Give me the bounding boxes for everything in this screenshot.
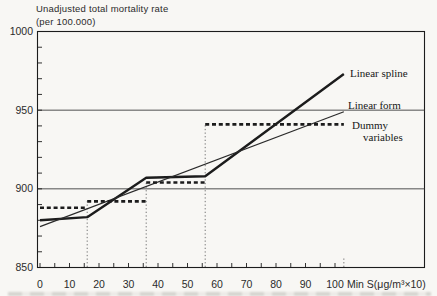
y-tick-label-950: 950 — [15, 104, 33, 116]
x-axis-title: Min S(μg/m³×10) — [347, 278, 426, 290]
chart-generated-layer: 10009509008500102030405060708090100Min S… — [10, 25, 426, 290]
x-tick-label-90: 90 — [300, 278, 312, 290]
y-tick-label-900: 900 — [15, 182, 33, 194]
series-label-linear-spline: Linear spline — [350, 67, 408, 79]
x-tick-label-60: 60 — [211, 278, 223, 290]
y-tick-label-850: 850 — [15, 261, 33, 273]
scan-artifact — [8, 292, 431, 296]
series-label-dummy-variables-line1: Dummy — [352, 119, 389, 131]
x-tick-label-70: 70 — [241, 278, 253, 290]
series-linear-spline — [40, 74, 344, 220]
series-linear-form — [40, 112, 344, 227]
series-labels: Linear spline Linear form Dummy variable… — [348, 67, 408, 143]
x-tick-label-40: 40 — [152, 278, 164, 290]
x-tick-label-20: 20 — [93, 278, 105, 290]
mortality-chart-figure: Unadjusted total mortality rate (per 100… — [0, 0, 437, 296]
x-tick-label-100: 100 — [326, 278, 344, 290]
x-tick-label-80: 80 — [270, 278, 282, 290]
y-tick-label-1000: 1000 — [10, 25, 34, 37]
x-tick-label-30: 30 — [123, 278, 135, 290]
x-tick-label-10: 10 — [64, 278, 76, 290]
series-label-linear-form: Linear form — [348, 99, 401, 111]
x-tick-label-0: 0 — [37, 278, 43, 290]
series-label-dummy-variables-line2: variables — [363, 131, 403, 143]
chart-canvas: 10009509008500102030405060708090100Min S… — [0, 0, 437, 296]
x-tick-label-50: 50 — [182, 278, 194, 290]
